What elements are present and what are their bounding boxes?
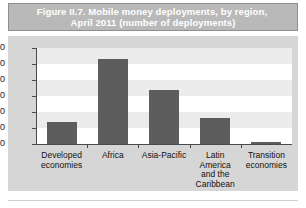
x-axis-tick: [190, 144, 191, 148]
y-axis-tick-label: 0: [0, 138, 5, 148]
x-axis-tick: [138, 144, 139, 148]
x-axis-category-label: Latin America and the Caribbean: [190, 151, 241, 189]
y-axis-tick-label-wrap: 40: [8, 80, 36, 81]
bar: [200, 118, 230, 144]
x-axis-category-label: Developed economies: [36, 151, 87, 170]
figure-title-line-2: April 2011 (number of deployments): [71, 17, 236, 29]
y-axis-tick-label-wrap: 20: [8, 112, 36, 113]
y-axis-tick-label: 60: [0, 42, 5, 52]
x-axis-tick: [87, 144, 88, 148]
x-axis-tick: [241, 144, 242, 148]
figure-title-line-1: Figure II.7. Mobile money deployments, b…: [37, 6, 269, 18]
x-axis-category-label: Transition economies: [241, 151, 292, 170]
bar: [47, 122, 77, 144]
bar: [149, 90, 179, 144]
y-axis-tick-label: 30: [0, 90, 5, 100]
y-axis-tick-label: 10: [0, 122, 5, 132]
y-axis-tick-label: 40: [0, 74, 5, 84]
bar: [251, 142, 281, 144]
bottom-rule: [8, 200, 298, 201]
y-axis-line: [36, 48, 37, 145]
y-axis-tick-label-wrap: 50: [8, 64, 36, 65]
y-axis-tick-label-wrap: 0: [8, 144, 36, 145]
background-band: [36, 48, 292, 64]
y-axis-tick-label: 20: [0, 106, 5, 116]
chart-plot-frame: 0102030405060 Developed economiesAfricaA…: [8, 36, 298, 191]
x-axis-category-label: Africa: [87, 151, 138, 161]
bar: [98, 59, 128, 144]
x-axis-category-label: Asia-Pacific: [138, 151, 189, 161]
y-axis-tick-label: 50: [0, 58, 5, 68]
y-axis-tick-label-wrap: 60: [8, 48, 36, 49]
figure-title-band: Figure II.7. Mobile money deployments, b…: [8, 3, 298, 31]
figure-container: Figure II.7. Mobile money deployments, b…: [0, 0, 306, 208]
y-axis-tick-label-wrap: 30: [8, 96, 36, 97]
x-axis-line: [36, 144, 292, 145]
y-axis-tick-label-wrap: 10: [8, 128, 36, 129]
